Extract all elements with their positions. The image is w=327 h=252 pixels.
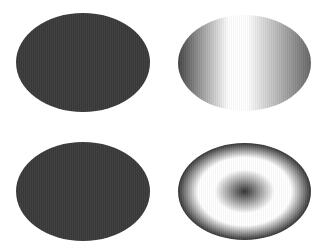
solid-dark-ellipse-top-left (16, 13, 150, 112)
horizontal-gradient-ellipse-top-right (178, 15, 311, 111)
solid-dark-ellipse-bottom-left (16, 142, 150, 241)
radial-gradient-ellipse-bottom-right (178, 143, 311, 240)
